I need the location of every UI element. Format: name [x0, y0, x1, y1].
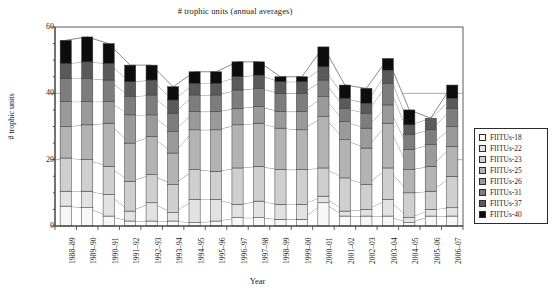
legend-swatch-icon: [479, 189, 486, 196]
legend-swatch-icon: [479, 145, 486, 152]
column-segment: [60, 102, 71, 127]
column-segment: [146, 221, 157, 226]
legend-item[interactable]: FIITUs-25: [479, 165, 544, 176]
column-segment: [296, 82, 307, 94]
legend-label: FIITUs-31: [490, 189, 522, 197]
column-segment: [253, 123, 264, 166]
column-segment: [125, 65, 136, 82]
column-segment: [361, 209, 372, 216]
legend-item[interactable]: FIITUs-26: [479, 176, 544, 187]
column-segment: [382, 105, 393, 123]
column-segment: [318, 97, 329, 117]
legend-label: FIITUs-40: [490, 211, 522, 219]
column-segment: [82, 62, 93, 79]
column-segment: [361, 113, 372, 128]
column-segment: [253, 201, 264, 218]
column-segment: [253, 107, 264, 124]
column-segment: [253, 75, 264, 88]
column-segment: [382, 83, 393, 105]
column-segment: [404, 193, 415, 218]
column-segment: [275, 93, 286, 111]
column-segment: [232, 168, 243, 204]
x-tick-label: 1993–94: [176, 237, 184, 264]
legend-label: FIITUs-37: [490, 200, 522, 208]
column-segment: [404, 170, 415, 193]
column-segment: [447, 176, 458, 208]
column-segment: [60, 63, 71, 78]
column-segment: [168, 213, 179, 221]
column-segment: [382, 199, 393, 216]
column-segment: [82, 160, 93, 192]
column-segment: [253, 88, 264, 106]
column-segment: [189, 199, 200, 222]
column-segment: [361, 185, 372, 210]
x-tick-label: 1994–95: [198, 237, 206, 264]
y-tick-label: 60: [30, 23, 54, 31]
column-segment: [146, 175, 157, 203]
column-segment: [60, 40, 71, 63]
column-segment: [189, 170, 200, 200]
column-segment: [103, 63, 114, 80]
legend-item[interactable]: FIITUs-18: [479, 132, 544, 143]
x-tick-label: 2000–01: [326, 237, 334, 264]
x-tick-label: 2004–05: [412, 237, 420, 264]
column-segment: [275, 204, 286, 219]
x-tick-label: 2005–06: [434, 237, 442, 264]
x-tick-label: 1997–98: [262, 237, 270, 264]
y-tick-label: 0: [30, 222, 54, 230]
column-segment: [82, 78, 93, 101]
column-segment: [146, 80, 157, 95]
column-segment: [361, 88, 372, 103]
column-segment: [82, 125, 93, 160]
legend-item[interactable]: FIITUs-40: [479, 209, 544, 220]
legend-swatch-icon: [479, 200, 486, 207]
column-segment: [103, 80, 114, 102]
column-segment: [447, 98, 458, 108]
column-segment: [168, 131, 179, 153]
column-segment: [447, 216, 458, 226]
column-segment: [60, 158, 71, 191]
column-segment: [189, 72, 200, 84]
legend-swatch-icon: [479, 178, 486, 185]
legend-item[interactable]: FIITUs-31: [479, 187, 544, 198]
legend-swatch-icon: [479, 167, 486, 174]
legend-item[interactable]: FIITUs-37: [479, 198, 544, 209]
column-segment: [275, 82, 286, 94]
column-segment: [168, 100, 179, 113]
column-segment: [232, 125, 243, 168]
column-segment: [339, 211, 350, 216]
column-segment: [168, 221, 179, 226]
column-segment: [296, 130, 307, 170]
column-segment: [232, 218, 243, 226]
chart-figure: # trophic units (annual averages) # trop…: [0, 0, 559, 298]
column-segment: [125, 82, 136, 97]
column-segment: [275, 77, 286, 82]
column-segment: [425, 191, 436, 209]
column-segment: [382, 70, 393, 83]
column-segment: [318, 47, 329, 67]
column-segment: [253, 166, 264, 201]
column-segment: [296, 219, 307, 226]
x-axis-title: Year: [55, 276, 460, 286]
column-segment: [361, 128, 372, 148]
column-segment: [103, 194, 114, 216]
x-tick-label: 1988–89: [69, 237, 77, 264]
column-segment: [168, 87, 179, 100]
column-segment: [447, 127, 458, 147]
x-tick-label: 2001–02: [348, 237, 356, 264]
column-segment: [168, 153, 179, 185]
column-segment: [103, 123, 114, 166]
column-segment: [404, 218, 415, 223]
column-segment: [210, 72, 221, 84]
column-segment: [339, 85, 350, 98]
column-segment: [125, 97, 136, 115]
legend-item[interactable]: FIITUs-23: [479, 154, 544, 165]
legend-item[interactable]: FIITUs-22: [479, 143, 544, 154]
legend-label: FIITUs-22: [490, 145, 522, 153]
column-segment: [60, 206, 71, 226]
column-segment: [146, 65, 157, 80]
column-segment: [82, 208, 93, 226]
column-segment: [404, 110, 415, 125]
column-segment: [125, 211, 136, 221]
column-segment: [447, 208, 458, 216]
